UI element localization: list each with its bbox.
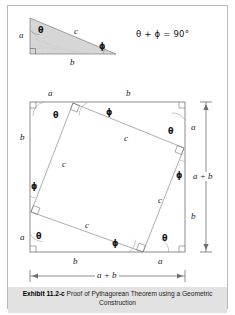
- triangle-label-c: c: [74, 27, 78, 36]
- angle-label-phi-right: ϕ: [176, 172, 182, 180]
- top-edge-label-b: b: [126, 89, 131, 98]
- top-edge-label-a: a: [48, 89, 53, 98]
- inner-side-label-c-top: c: [124, 134, 128, 143]
- triangle-label-b: b: [70, 58, 75, 67]
- vertical-dimension-label: a + b: [192, 172, 214, 181]
- angle-label-theta-bottom-left: θ: [36, 233, 42, 241]
- angle-label-phi-bottom: ϕ: [112, 240, 118, 248]
- horizontal-dimension-label: a + b: [95, 271, 119, 280]
- triangle-angle-phi: ϕ: [99, 43, 105, 51]
- inner-side-label-c-bottom: c: [85, 221, 89, 230]
- bottom-edge-label-b: b: [73, 257, 78, 266]
- caption-text: Proof of Pythagorean Theorem using a Geo…: [65, 290, 213, 306]
- angle-label-theta-top-left: θ: [53, 112, 59, 120]
- caption-exhibit-label: Exhibit 11.2-c: [23, 290, 65, 297]
- figure-caption: Exhibit 11.2-c Proof of Pythagorean Theo…: [8, 287, 227, 313]
- angle-label-phi-left: ϕ: [31, 183, 37, 191]
- triangle-label-a: a: [19, 31, 24, 40]
- figure-graphics: [0, 0, 235, 315]
- left-edge-label-b: b: [20, 133, 25, 142]
- inner-side-label-c-right: c: [158, 196, 162, 205]
- right-edge-label-b: b: [191, 212, 196, 221]
- triangle-angle-theta: θ: [38, 27, 44, 35]
- left-edge-label-a: a: [20, 233, 25, 242]
- angle-label-theta-top-right: θ: [168, 128, 174, 136]
- angle-label-phi-top: ϕ: [106, 109, 112, 117]
- figure-page: a b c θ ϕ θ + ϕ = 90° a b b a b a a b a …: [0, 0, 235, 315]
- inner-side-label-c-left: c: [62, 160, 66, 169]
- angle-sum-equation: θ + ϕ = 90°: [136, 29, 189, 39]
- bottom-edge-label-a: a: [158, 257, 163, 266]
- right-edge-label-a: a: [191, 123, 196, 132]
- angle-label-theta-bottom-right: θ: [162, 235, 168, 243]
